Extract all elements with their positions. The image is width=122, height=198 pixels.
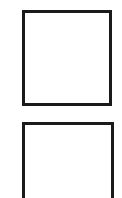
empty-box-bottom	[22, 122, 114, 198]
empty-box-top	[22, 10, 112, 106]
